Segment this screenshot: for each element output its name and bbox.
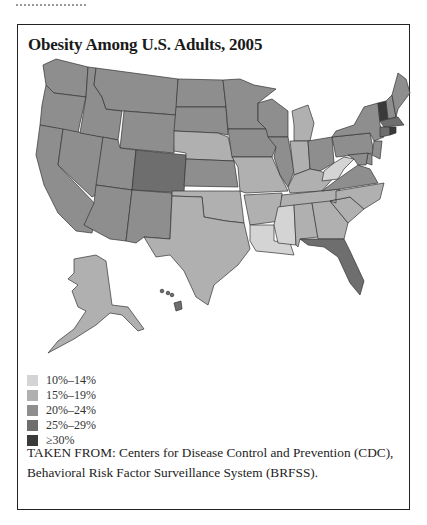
legend-label: 25%–29% — [46, 418, 96, 433]
legend-swatch — [27, 405, 38, 416]
state-me — [392, 73, 410, 117]
state-nj — [372, 141, 382, 159]
source-note: TAKEN FROM: Centers for Disease Control … — [27, 443, 402, 483]
source-line-1: TAKEN FROM: Centers for Disease Control … — [27, 443, 402, 463]
source-line-2: Behavioral Risk Factor Surveillance Syst… — [27, 463, 402, 483]
state-mi — [292, 105, 314, 141]
state-hi — [160, 289, 182, 311]
state-ri — [390, 127, 396, 135]
legend-swatch — [27, 420, 38, 431]
us-choropleth-map — [18, 45, 411, 375]
figure-frame: Obesity Among U.S. Adults, 2005 — [17, 24, 410, 510]
state-ak — [48, 255, 144, 353]
legend-swatch — [27, 390, 38, 401]
cropped-caption-fragment — [16, 0, 86, 6]
state-sd — [174, 107, 228, 135]
legend-item: 15%–19% — [27, 388, 96, 403]
state-ct — [380, 127, 390, 137]
legend-item: 25%–29% — [27, 418, 96, 433]
map-legend: 10%–14% 15%–19% 20%–24% 25%–29% ≥30% — [27, 373, 96, 448]
state-mt — [94, 68, 178, 115]
legend-label: 20%–24% — [46, 403, 96, 418]
legend-item: 10%–14% — [27, 373, 96, 388]
legend-swatch — [27, 375, 38, 386]
state-ms — [274, 205, 296, 245]
legend-item: 20%–24% — [27, 403, 96, 418]
state-wy — [120, 111, 176, 153]
state-nd — [176, 79, 226, 107]
state-co — [132, 150, 186, 193]
state-fl — [300, 239, 364, 295]
legend-label: 15%–19% — [46, 388, 96, 403]
state-ks — [184, 159, 238, 187]
legend-label: 10%–14% — [46, 373, 96, 388]
state-nm — [126, 190, 172, 243]
